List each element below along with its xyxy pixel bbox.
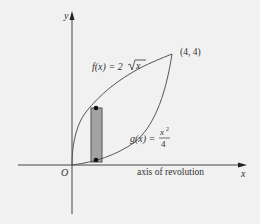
svg-text:g(x) =: g(x) = [130, 133, 155, 145]
x-axis-arrow-icon [238, 163, 247, 168]
svg-text:x: x [135, 60, 141, 71]
x-axis [18, 163, 247, 168]
x-axis-label: x [240, 168, 246, 179]
y-axis [70, 11, 75, 214]
intersection-label: (4, 4) [180, 47, 201, 58]
y-axis-arrow-icon [70, 11, 75, 20]
svg-text:f(x) = 2: f(x) = 2 [92, 61, 123, 73]
svg-text:2: 2 [166, 126, 169, 132]
svg-text:x: x [159, 127, 164, 137]
axis-of-revolution-label: axis of revolution [137, 167, 204, 177]
y-axis-label: y [63, 10, 69, 21]
f-label: f(x) = 2 x [92, 60, 146, 73]
upper-point-icon [94, 106, 99, 111]
origin-label: O [61, 167, 68, 178]
revolution-diagram: y x O axis of revolution (4, 4) f(x) = 2… [0, 0, 260, 224]
g-label: g(x) = x 2 4 [130, 126, 170, 149]
svg-text:4: 4 [161, 139, 166, 149]
representative-rectangle [91, 108, 102, 162]
lower-point-icon [94, 158, 99, 163]
